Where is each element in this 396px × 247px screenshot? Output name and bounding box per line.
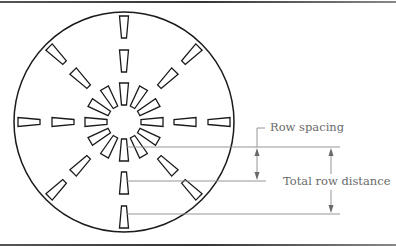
total-distance-arrow-down	[329, 205, 334, 213]
hole-wedge-middle	[158, 68, 179, 89]
hole-wedge-inner	[120, 139, 129, 161]
hole-wedge-inner	[101, 136, 118, 159]
hole-wedge-inner	[85, 118, 107, 127]
hole-wedge-outer	[120, 206, 129, 228]
dimension-lines	[127, 128, 340, 214]
hole-wedge-outer	[208, 118, 230, 127]
hole-wedge-outer	[182, 180, 203, 201]
total-row-distance-label: Total row distance	[283, 176, 391, 188]
hole-wedge-outer	[46, 180, 67, 201]
hole-wedge-outer	[46, 44, 67, 65]
hole-wedge-middle	[158, 156, 179, 177]
hole-wedge-middle	[174, 118, 196, 127]
wedge-group	[18, 16, 230, 228]
hole-wedge-inner	[88, 128, 111, 145]
hole-wedge-middle	[120, 50, 129, 72]
hole-wedge-outer	[182, 44, 203, 65]
row-spacing-arrow-down	[255, 172, 260, 180]
hole-wedge-inner	[120, 83, 129, 105]
total-distance-arrow-up	[329, 148, 334, 156]
hole-wedge-middle	[120, 172, 129, 194]
hole-wedge-inner	[138, 128, 161, 145]
hole-wedge-inner	[141, 118, 163, 127]
hole-wedge-middle	[70, 68, 91, 89]
hole-wedge-inner	[130, 86, 147, 109]
hole-wedge-middle	[70, 156, 91, 177]
hole-wedge-inner	[138, 99, 161, 116]
face-circle	[14, 12, 234, 232]
row-spacing-leader	[257, 128, 265, 147]
row-spacing-arrow-up	[255, 148, 260, 156]
hole-wedge-outer	[18, 118, 40, 127]
diagram-frame: Row spacing Total row distance	[0, 0, 396, 247]
hole-wedge-inner	[88, 99, 111, 116]
hole-wedge-inner	[101, 86, 118, 109]
row-spacing-label: Row spacing	[270, 122, 344, 134]
hole-wedge-middle	[52, 118, 74, 127]
hole-wedge-outer	[120, 16, 129, 38]
